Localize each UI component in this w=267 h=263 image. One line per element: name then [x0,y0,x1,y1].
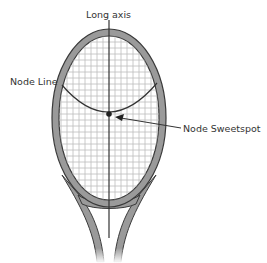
node-line-label: Node Line [10,77,58,87]
node-sweetspot-label: Node Sweetspot [183,124,261,134]
long-axis-label: Long axis [86,10,131,20]
node-sweetspot-dot [106,111,112,117]
